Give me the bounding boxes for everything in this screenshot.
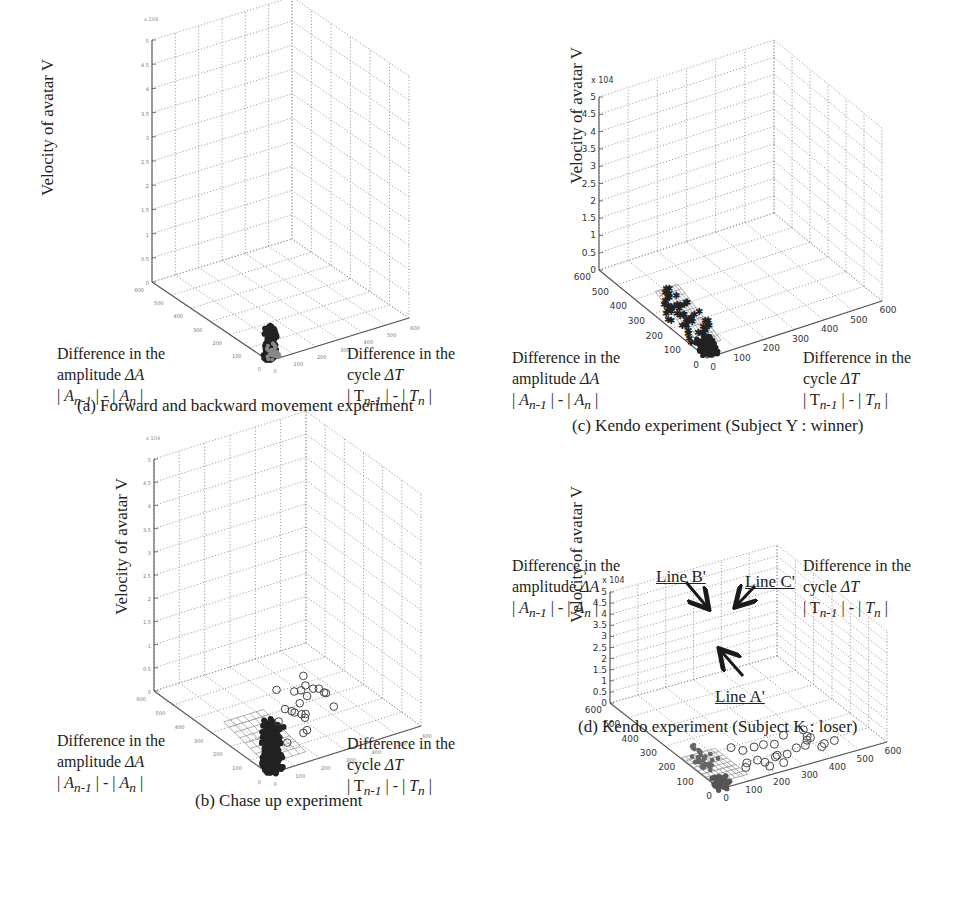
data-point [269,764,275,770]
annotation-line-b: Line B' [656,567,706,587]
panel-caption: (c) Kendo experiment (Subject Y : winner… [572,416,863,436]
a-tick-label: 600 [134,287,144,293]
data-point [710,343,715,348]
z-axis-label: Velocity of avatar V [38,59,58,196]
data-point-star: ✱ [672,290,680,301]
panel-caption: (b) Chase up experiment [195,791,363,811]
data-point-open [742,763,750,771]
a-tick-label: 0 [258,779,261,785]
data-point [699,342,704,347]
a-axis-label-line2: amplitude ΔA [57,751,165,772]
t-tick-label: 500 [387,332,397,338]
panel-caption: (a) Forward and backward movement experi… [77,396,414,416]
a-tick-label: 300 [628,316,645,326]
t-tick-label: 400 [829,762,846,772]
z-axis-label: Velocity of avatar V [112,478,132,615]
t-tick-label: 0 [723,793,729,803]
data-point [264,745,270,751]
z-tick-label: 0 [601,698,607,708]
data-point-open [750,743,758,751]
data-point-open [771,753,779,761]
t-tick-label: 200 [763,343,780,353]
data-point-star: ✱ [667,315,675,326]
a-axis-label-line2: amplitude ΔA [512,576,620,597]
a-axis-label-line1: Difference in the [57,343,165,364]
z-tick-label: 1.5 [143,619,151,625]
t-tick-label: 0 [710,362,716,372]
z-tick-label: 5 [148,457,151,463]
data-point [266,324,271,329]
t-axis-label: Difference in the cycle ΔT| Tn-1 | - | T… [347,733,455,801]
t-axis-label-line3: | Tn-1 | - | Tn | [803,597,911,623]
data-point-open [330,703,338,711]
data-point [265,750,271,756]
annotation-line-a: Line A' [715,687,765,707]
data-point-open [780,759,788,767]
a-tick-label: 100 [232,765,242,771]
data-point-open [303,692,311,700]
t-tick-label: 300 [801,770,818,780]
a-tick-label: 300 [640,748,657,758]
z-tick-label: 0.5 [143,666,151,672]
t-tick-label: 600 [884,746,901,756]
data-point-open [296,699,304,707]
a-axis-label-line1: Difference in the [512,555,620,576]
a-axis-label-line1: Difference in the [512,347,620,368]
data-point [717,779,722,784]
t-tick-label: 500 [850,315,867,325]
data-point [270,759,276,765]
z-tick-label: 4 [146,86,149,92]
a-axis-label: Difference in theamplitude ΔA| An-1 | - … [57,730,165,798]
t-tick-label: 100 [296,773,306,779]
data-point-open [297,687,305,695]
panel-c: 00.511.522.533.544.55x 10401002003004005… [480,0,965,470]
z-tick-label: 3 [601,631,607,641]
data-point-open [759,741,767,749]
t-tick-label: 300 [792,334,809,344]
data-point [266,728,272,734]
data-point [273,329,278,334]
z-exponent-label: x 104 [591,76,614,85]
a-tick-label: 200 [213,751,223,757]
data-point [705,338,710,343]
data-point-open [770,740,778,748]
data-point [266,357,270,361]
a-tick-label: 100 [232,353,242,359]
data-point [270,357,274,361]
z-tick-label: 3.5 [141,111,149,117]
t-axis-label-line1: Difference in the [803,555,911,576]
a-axis-label-line2: amplitude ΔA [512,368,620,389]
a-axis-label-line3: | An-1 | - | An | [57,772,165,798]
a-tick-label: 0 [706,791,712,801]
t-tick-label: 0 [273,781,276,787]
data-point [690,754,695,759]
z-tick-label: 4 [148,503,151,509]
a-tick-label: 500 [592,287,609,297]
a-tick-label: 300 [193,327,203,333]
t-tick-label: 400 [821,324,838,334]
a-axis-label-line1: Difference in the [57,730,165,751]
data-point [696,755,701,760]
panel-d: 00.511.522.533.544.55x 10401002003004005… [480,455,965,910]
data-point [698,749,703,754]
a-tick-label: 600 [136,696,146,702]
data-point-star: ✱ [684,325,692,336]
z-tick-label: 1.5 [582,213,596,223]
panel-a: 00.511.522.533.544.55x 10401002003004005… [0,0,480,470]
z-exponent-label: x 104 [146,435,160,441]
a-tick-label: 200 [658,762,675,772]
z-tick-label: 0 [148,689,151,695]
data-point [715,351,720,356]
a-tick-label: 400 [173,313,183,319]
a-tick-label: 600 [574,272,591,282]
a-tick-label: 0 [258,366,261,372]
z-axis-label: Velocity of avatar V [567,47,587,184]
annotation-line-c: Line C' [745,572,795,592]
data-point [262,331,267,336]
data-point [710,758,715,763]
annotation-arrow [721,651,743,676]
data-point-open [309,685,317,693]
data-point-open [291,709,299,717]
z-tick-label: 4 [590,127,596,137]
a-tick-label: 100 [676,777,693,787]
